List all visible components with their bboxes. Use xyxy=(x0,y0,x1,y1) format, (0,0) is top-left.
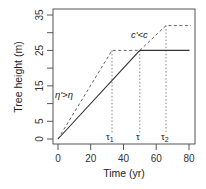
y-axis xyxy=(47,15,53,139)
y-tick-15: 15 xyxy=(34,80,45,92)
x-tick-80: 80 xyxy=(183,153,195,164)
x-axis xyxy=(58,144,189,150)
x-tick-60: 60 xyxy=(151,153,163,164)
y-tick-35: 35 xyxy=(34,9,45,21)
y-tick-0: 0 xyxy=(34,136,45,142)
y-tick-5: 5 xyxy=(34,118,45,124)
y-tick-25: 25 xyxy=(34,44,45,56)
plot-frame xyxy=(53,9,195,144)
x-tick-labels: 0 20 40 60 80 xyxy=(55,153,195,164)
eta-annotation: η'>η xyxy=(55,89,73,100)
y-axis-title: Tree height (m) xyxy=(12,41,24,112)
tau-label: τ xyxy=(136,131,140,142)
x-axis-title: Time (yr) xyxy=(103,167,145,179)
tau2-label: τ2 xyxy=(161,131,169,143)
tau1-label: τ1 xyxy=(106,131,114,143)
x-tick-40: 40 xyxy=(118,153,130,164)
tree-height-chart: 0 5 15 25 35 Tree height (m) 0 20 40 60 … xyxy=(0,0,206,189)
y-tick-labels: 0 5 15 25 35 xyxy=(34,9,45,142)
c-annotation: c'<c xyxy=(131,29,148,40)
x-tick-0: 0 xyxy=(55,153,61,164)
x-tick-20: 20 xyxy=(85,153,97,164)
tau-markers xyxy=(112,26,166,133)
baseline-curve xyxy=(58,50,190,139)
